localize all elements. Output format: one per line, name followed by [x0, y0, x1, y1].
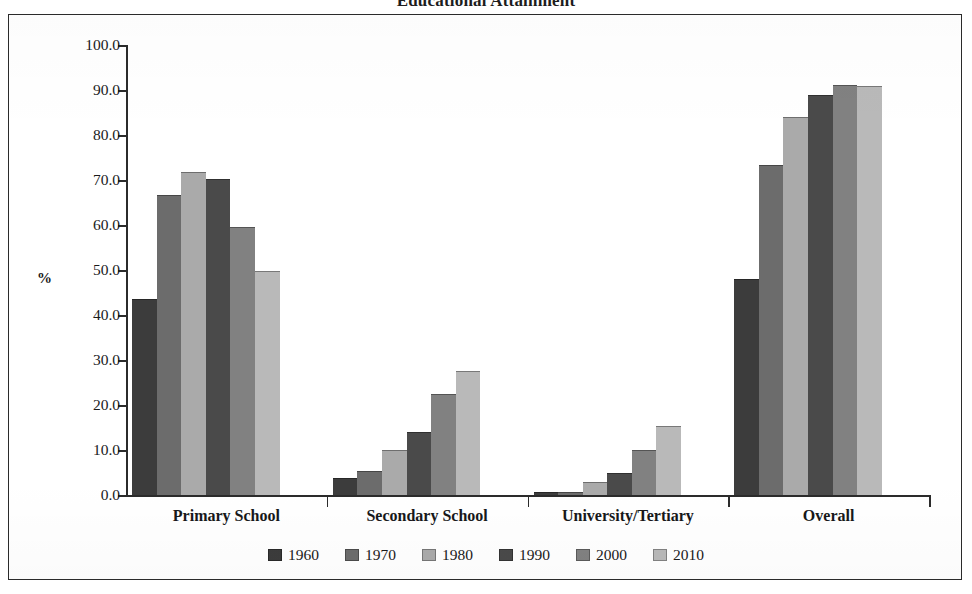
plot-area: 100.090.080.070.060.050.040.030.020.010.…: [126, 45, 929, 495]
y-tick-label: 10.0: [93, 441, 120, 459]
legend-swatch-icon: [422, 549, 436, 561]
category-separator: [327, 496, 329, 507]
y-tick-label: 80.0: [93, 126, 120, 144]
bar[interactable]: [734, 279, 759, 495]
legend-label: 1960: [288, 546, 319, 564]
category-separator: [728, 496, 730, 507]
legend-label: 1980: [442, 546, 473, 564]
legend-label: 1990: [519, 546, 550, 564]
bar-group-bars: [534, 45, 682, 495]
y-tick-label: 60.0: [93, 216, 120, 234]
bar[interactable]: [230, 227, 255, 495]
category-label: Overall: [728, 507, 929, 525]
legend-item[interactable]: 1980: [422, 546, 473, 564]
bar[interactable]: [382, 450, 407, 495]
legend-label: 2000: [596, 546, 627, 564]
bar[interactable]: [407, 432, 432, 495]
chart-frame: % 100.090.080.070.060.050.040.030.020.01…: [8, 14, 962, 580]
bar[interactable]: [783, 117, 808, 495]
bar-group: [333, 45, 481, 495]
bar-group: [534, 45, 682, 495]
bar[interactable]: [656, 426, 681, 495]
y-tick-label: 40.0: [93, 306, 120, 324]
bar[interactable]: [206, 179, 231, 495]
y-tick-label: 50.0: [93, 261, 120, 279]
bar[interactable]: [534, 492, 559, 495]
figure-title: Educational Attainment: [0, 0, 972, 13]
y-tick-label: 0.0: [101, 486, 120, 504]
bar[interactable]: [857, 86, 882, 496]
category-separator: [929, 496, 931, 507]
y-tick-label: 20.0: [93, 396, 120, 414]
bar[interactable]: [632, 450, 657, 495]
legend-swatch-icon: [345, 549, 359, 561]
y-tick-label: 30.0: [93, 351, 120, 369]
legend-swatch-icon: [576, 549, 590, 561]
bar-group-bars: [333, 45, 481, 495]
y-tick-label: 70.0: [93, 171, 120, 189]
bar[interactable]: [181, 172, 206, 495]
legend-label: 1970: [365, 546, 396, 564]
y-tick-label: 90.0: [93, 81, 120, 99]
bar[interactable]: [558, 492, 583, 495]
bar[interactable]: [456, 371, 481, 495]
category-separator: [528, 496, 530, 507]
bar[interactable]: [132, 299, 157, 495]
legend-item[interactable]: 1990: [499, 546, 550, 564]
bar-group: [132, 45, 280, 495]
bar[interactable]: [333, 478, 358, 495]
bar-group-bars: [734, 45, 882, 495]
legend-label: 2010: [673, 546, 704, 564]
legend-swatch-icon: [653, 549, 667, 561]
bar-group-bars: [132, 45, 280, 495]
category-label: Primary School: [126, 507, 327, 525]
bar[interactable]: [431, 394, 456, 495]
bar[interactable]: [759, 165, 784, 495]
bar-group: [734, 45, 882, 495]
bar[interactable]: [833, 85, 858, 495]
category-label: University/Tertiary: [528, 507, 729, 525]
legend-item[interactable]: 2010: [653, 546, 704, 564]
bar[interactable]: [607, 473, 632, 495]
y-axis-title: %: [37, 270, 52, 287]
bar[interactable]: [583, 482, 608, 495]
legend-swatch-icon: [499, 549, 513, 561]
y-tick-label: 100.0: [85, 36, 120, 54]
category-label: Secondary School: [327, 507, 528, 525]
legend-item[interactable]: 1970: [345, 546, 396, 564]
bar[interactable]: [255, 271, 280, 495]
bar[interactable]: [808, 95, 833, 496]
chart-legend: 196019701980199020002010: [9, 546, 963, 564]
bar[interactable]: [157, 195, 182, 495]
bar[interactable]: [357, 471, 382, 495]
legend-item[interactable]: 2000: [576, 546, 627, 564]
legend-item[interactable]: 1960: [268, 546, 319, 564]
legend-swatch-icon: [268, 549, 282, 561]
